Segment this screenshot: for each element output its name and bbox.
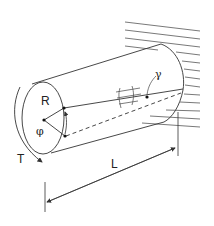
gamma-label: γ	[155, 68, 162, 81]
torsion-diagram: γ R φ T L	[0, 0, 214, 226]
radius-label: R	[41, 94, 50, 108]
deformed-point	[62, 106, 65, 109]
surface-element	[116, 86, 141, 108]
center-point	[42, 118, 45, 121]
length-label: L	[111, 157, 118, 171]
diagram-canvas: γ R φ T L	[0, 0, 214, 226]
torque-label: T	[17, 152, 25, 166]
cylinder-top-edge	[32, 44, 161, 84]
strain-point	[145, 95, 148, 98]
cylinder-bottom-edge	[51, 122, 164, 153]
fixed-wall-hatching	[125, 22, 200, 127]
original-point	[63, 134, 66, 137]
original-generator-line	[66, 93, 181, 136]
twist-arc	[65, 112, 67, 134]
twist-angle-label: φ	[36, 125, 44, 138]
radius-lines	[44, 108, 65, 136]
cylinder-left-end	[22, 82, 64, 154]
